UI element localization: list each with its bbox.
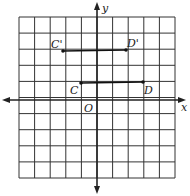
x-axis-left-arrow-icon — [2, 97, 10, 103]
y-axis-label: y — [101, 2, 109, 15]
x-axis-label: x — [181, 101, 188, 114]
label-c-prime: C' — [51, 38, 62, 51]
label-d: D — [143, 84, 153, 97]
coordinate-plane: x y O C D C' D' — [0, 0, 190, 196]
origin-label: O — [84, 102, 93, 115]
segment-cd — [81, 82, 143, 83]
y-axis-up-arrow-icon — [94, 2, 100, 10]
segment-c-prime-d-prime — [63, 50, 126, 51]
y-axis-down-arrow-icon — [94, 186, 100, 194]
point-c — [79, 81, 83, 85]
label-d-prime: D' — [126, 37, 139, 50]
label-c: C — [70, 84, 79, 97]
